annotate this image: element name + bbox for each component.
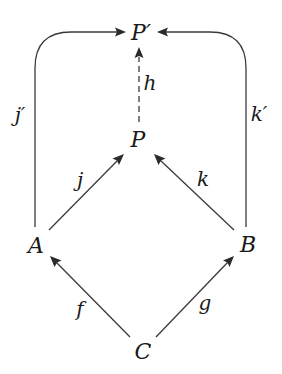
node-B: B	[239, 232, 256, 257]
node-A: A	[26, 233, 44, 258]
edge-kprime-line	[166, 32, 246, 227]
edge-f-line	[56, 262, 130, 337]
edge-jprime	[35, 28, 126, 228]
edge-f	[50, 256, 130, 337]
node-C: C	[135, 339, 152, 364]
edge-jprime-line	[35, 32, 117, 227]
edge-j-line	[49, 160, 118, 230]
label-kprime: k′	[251, 102, 268, 126]
commutative-diagram: P′ P A B C j′ k′ h j k f g	[0, 0, 282, 374]
edge-g-line	[156, 262, 228, 337]
arrowhead-h	[135, 47, 144, 58]
edge-k	[154, 154, 234, 230]
label-f: f	[74, 297, 87, 321]
edge-g	[156, 256, 234, 337]
node-Pprime: P′	[130, 20, 151, 45]
label-jprime: j′	[11, 103, 26, 127]
label-g: g	[199, 291, 212, 315]
edge-kprime	[157, 28, 246, 228]
node-P: P	[130, 127, 147, 152]
label-j: j	[73, 168, 83, 192]
edge-h	[135, 47, 144, 122]
edge-j	[49, 154, 124, 230]
label-k: k	[197, 167, 209, 191]
label-h: h	[144, 71, 157, 95]
